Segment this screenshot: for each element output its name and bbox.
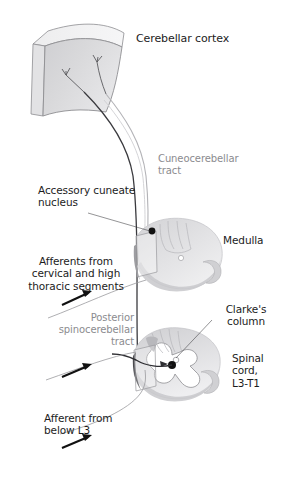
afferent-input-fibers xyxy=(46,280,146,434)
afferent-arrow-lumbar xyxy=(62,363,92,377)
afferent-fiber-lumbar xyxy=(46,352,136,380)
label-accessory-cuneate-nucleus: Accessory cuneate nucleus xyxy=(38,184,135,209)
afferent-arrow-cervical xyxy=(62,290,92,305)
label-medulla: Medulla xyxy=(223,234,263,246)
cerebellar-cortex xyxy=(31,24,124,116)
cerebellar-cortex-front-face xyxy=(43,39,122,116)
label-afferent-below-l3: Afferent from below L3 xyxy=(44,412,112,437)
medulla-cut-plane xyxy=(136,231,157,277)
label-cerebellar-cortex: Cerebellar cortex xyxy=(136,33,229,46)
medulla-central-canal xyxy=(178,255,183,260)
leader-accessory-cuneate xyxy=(88,213,150,231)
medulla-cross-section xyxy=(134,218,222,291)
label-clarkes-column: Clarke's column xyxy=(214,303,278,328)
label-cuneocerebellar-tract: Cuneocerebellar tract xyxy=(158,153,238,177)
spinal-cord-cut-plane xyxy=(134,345,156,391)
label-posterior-spinocerebellar-tract: Posterior spinocerebellar tract xyxy=(26,312,134,347)
label-afferents-cervical-thoracic: Afferents from cervical and high thoraci… xyxy=(20,255,132,292)
label-spinal-cord: Spinal cord, L3-T1 xyxy=(232,352,264,389)
